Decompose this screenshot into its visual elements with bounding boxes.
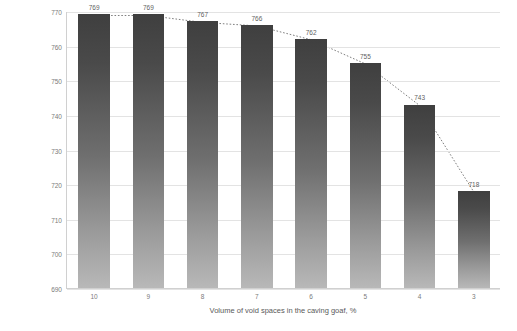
x-axis-tick-label: 6 — [309, 293, 313, 300]
y-axis-tick-label: 740 — [51, 112, 62, 119]
gridline — [67, 289, 500, 290]
y-axis-tick-label: 760 — [51, 43, 62, 50]
bar-value-label: 769 — [89, 4, 100, 11]
x-axis-tick-label: 5 — [364, 293, 368, 300]
x-axis-tick-label: 10 — [91, 293, 98, 300]
bar[interactable] — [350, 63, 381, 288]
x-axis-tick-label: 4 — [418, 293, 422, 300]
y-axis-tick-label: 720 — [51, 182, 62, 189]
bar-value-label: 743 — [414, 94, 425, 101]
bar-value-label: 769 — [143, 4, 154, 11]
x-axis-tick-label: 3 — [472, 293, 476, 300]
bar[interactable] — [241, 25, 272, 288]
y-axis-tick-label: 690 — [51, 286, 62, 293]
x-axis-tick-label: 8 — [201, 293, 205, 300]
x-axis-tick-label: 9 — [147, 293, 151, 300]
bar-value-label: 766 — [251, 15, 262, 22]
bar[interactable] — [404, 105, 435, 289]
bar[interactable] — [133, 14, 164, 288]
plot-area: 6907007107207307407507607707691076997678… — [66, 12, 500, 289]
y-axis-tick-label: 770 — [51, 9, 62, 16]
x-axis-title: Volume of void spaces in the caving goaf… — [66, 306, 500, 315]
y-axis-tick-label: 750 — [51, 78, 62, 85]
x-axis-tick-label: 7 — [255, 293, 259, 300]
bar-value-label: 718 — [468, 181, 479, 188]
y-axis-tick-label: 730 — [51, 147, 62, 154]
y-axis-tick-label: 710 — [51, 216, 62, 223]
chart-container: Volume of airflow migrating through the … — [0, 0, 517, 331]
bar[interactable] — [295, 39, 326, 288]
gridline — [67, 12, 500, 13]
y-axis-tick-label: 700 — [51, 251, 62, 258]
bar-value-label: 755 — [360, 53, 371, 60]
bar[interactable] — [458, 191, 489, 288]
bar[interactable] — [187, 21, 218, 288]
bar-value-label: 767 — [197, 11, 208, 18]
bar-value-label: 762 — [306, 29, 317, 36]
bar[interactable] — [78, 14, 109, 288]
